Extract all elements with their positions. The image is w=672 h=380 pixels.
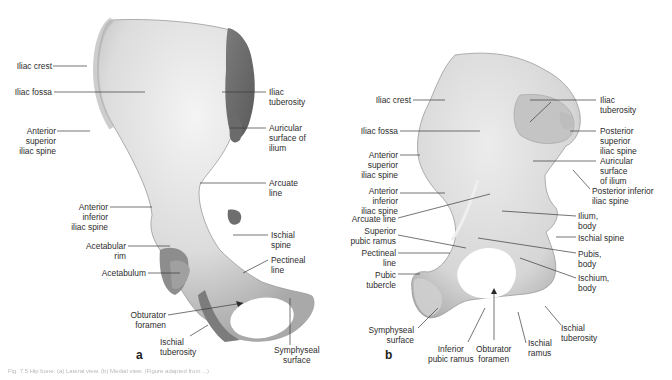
- label-b-pubic-tubercle: Pubic tubercle: [340, 270, 396, 290]
- label-b-pubis-body: Pubis, body: [578, 249, 601, 269]
- label-a-ischial-spine: Ischial spine: [271, 230, 295, 250]
- label-b-pectineal-line: Pectineal line: [340, 248, 396, 268]
- label-a-ischial-tuberosity: Ischial tuberosity: [160, 337, 196, 357]
- label-a-asis: Anterior superior iliac spine: [4, 126, 56, 156]
- label-a-pectineal-line: Pectineal line: [271, 255, 305, 275]
- panel-letter-b: b: [385, 348, 392, 362]
- label-b-superior-pubic-ramus: Superior pubic ramus: [340, 226, 396, 246]
- label-a-iliac-tuberosity: Iliac tuberosity: [269, 87, 305, 107]
- label-b-ilium-body: Ilium, body: [578, 211, 598, 231]
- panel-b-bone: [412, 53, 581, 318]
- label-b-psis: Posterior superior iliac spine: [600, 126, 637, 156]
- label-b-aiis: Anterior inferior iliac spine: [350, 186, 398, 216]
- label-a-iliac-fossa: Iliac fossa: [4, 87, 52, 97]
- label-b-iliac-fossa: Iliac fossa: [356, 126, 398, 136]
- label-a-iliac-crest: Iliac crest: [4, 61, 52, 71]
- label-a-arcuate-line: Arcuate line: [269, 178, 298, 198]
- label-a-symphyseal-surface: Symphyseal surface: [274, 345, 320, 365]
- label-b-symphyseal-surface: Symphyseal surface: [358, 325, 414, 345]
- label-a-aiis: Anterior inferior iliac spine: [50, 202, 108, 232]
- label-b-ischial-ramus: Ischial ramus: [528, 338, 552, 358]
- label-b-arcuate-line: Arcuate line: [330, 214, 396, 224]
- label-b-ischium-body: Ischium, body: [578, 273, 609, 293]
- label-b-pii-spine: Posterior inferior iliac spine: [592, 186, 653, 206]
- label-b-obturator-foramen: Obturator foramen: [476, 344, 511, 364]
- label-a-acetabulum: Acetabulum: [80, 268, 146, 278]
- label-b-iliac-tuberosity: Iliac tuberosity: [600, 95, 636, 115]
- label-b-iliac-crest: Iliac crest: [356, 95, 411, 105]
- label-b-asis: Anterior superior iliac spine: [350, 150, 398, 180]
- label-b-auricular-surface: Auricular surface of ilium: [600, 156, 633, 186]
- label-b-inferior-pubic-ramus: Inferior pubic ramus: [428, 344, 474, 364]
- label-a-acetabular-rim: Acetabular rim: [70, 241, 126, 261]
- label-a-obturator-foramen: Obturator foramen: [110, 310, 166, 330]
- label-a-auricular-surface: Auricular surface of ilium: [269, 123, 306, 153]
- panel-letter-a: a: [136, 348, 143, 362]
- label-b-ischial-spine: Ischial spine: [578, 233, 624, 243]
- figure-caption: Fig. 7.5 Hip bone: (a) Lateral view. (b)…: [8, 368, 668, 374]
- label-b-ischial-tuberosity: Ischial tuberosity: [561, 323, 597, 343]
- hip-bone-figure: Iliac crest Iliac fossa Anterior superio…: [0, 0, 672, 380]
